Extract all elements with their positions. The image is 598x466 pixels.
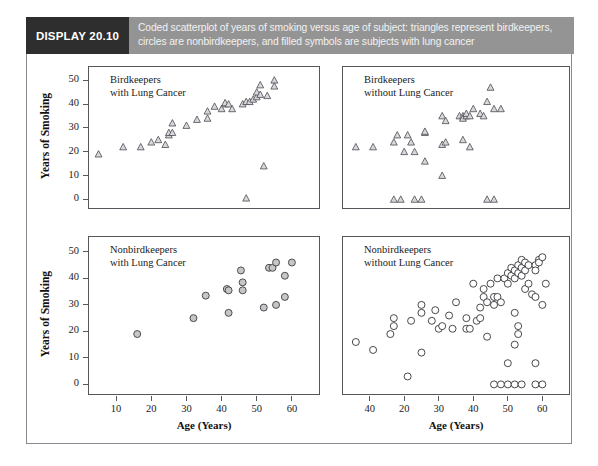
data-point	[484, 299, 491, 306]
data-point	[404, 373, 411, 380]
data-point	[239, 279, 246, 286]
y-tickmark	[83, 278, 88, 279]
data-point	[204, 115, 211, 121]
y-tick-label: 40	[54, 271, 79, 282]
data-point	[421, 128, 428, 134]
data-point	[539, 254, 546, 261]
data-point	[491, 381, 498, 388]
x-tick-label: 10	[101, 403, 131, 414]
x-tick-label: 50	[493, 403, 523, 414]
data-point	[162, 141, 169, 147]
y-tick-label: 50	[54, 245, 79, 256]
y-tick-label: 20	[54, 324, 79, 335]
data-point	[281, 272, 288, 279]
data-point	[390, 315, 397, 322]
data-point	[466, 143, 473, 149]
x-tick-label: 40	[355, 403, 385, 414]
y-axis-title: Years of Smoking	[38, 234, 50, 393]
data-point	[387, 331, 394, 338]
data-point	[390, 139, 397, 145]
data-point	[477, 315, 484, 322]
data-point	[463, 315, 470, 322]
data-point	[470, 280, 477, 287]
data-point	[484, 196, 491, 202]
y-tick-label: 30	[54, 121, 79, 132]
x-tick-label: 20	[389, 403, 419, 414]
data-point	[155, 136, 162, 142]
data-point	[95, 151, 102, 157]
x-tick-label: 30	[424, 403, 454, 414]
data-point	[183, 122, 190, 128]
data-point	[408, 139, 415, 145]
data-point	[390, 323, 397, 330]
data-point	[264, 92, 271, 98]
data-point	[432, 307, 439, 314]
data-point	[418, 309, 425, 316]
data-point	[497, 299, 504, 306]
y-tickmark	[83, 80, 88, 81]
x-tick-label: 60	[277, 403, 307, 414]
data-point	[442, 139, 449, 145]
y-tick-label: 10	[54, 169, 79, 180]
data-point	[169, 120, 176, 126]
data-point	[494, 275, 501, 282]
data-point	[418, 196, 425, 202]
data-point	[202, 292, 209, 299]
x-tick-label: 40	[207, 403, 237, 414]
data-point	[515, 323, 522, 330]
data-marker-layer-nonbirdkeepers-without-lung-cancer	[342, 236, 570, 395]
data-point	[194, 116, 201, 122]
data-point	[532, 381, 539, 388]
x-axis-title: Age (Years)	[88, 419, 320, 431]
data-point	[446, 312, 453, 319]
data-point	[532, 293, 539, 300]
data-point	[518, 381, 525, 388]
data-point	[401, 148, 408, 154]
scatter-panel-nonbirdkeepers-without-lung-cancer: Nonbirdkeepers without Lung Cancer402030…	[342, 236, 570, 395]
data-point	[352, 339, 359, 346]
data-point	[370, 143, 377, 149]
y-tickmark	[83, 151, 88, 152]
data-point	[148, 139, 155, 145]
data-point	[525, 262, 532, 269]
data-point	[225, 309, 232, 316]
data-point	[428, 317, 435, 324]
data-point	[504, 381, 511, 388]
y-tick-label: 10	[54, 351, 79, 362]
data-point	[273, 259, 280, 266]
data-point	[511, 309, 518, 316]
data-point	[411, 196, 418, 202]
y-tickmark	[83, 199, 88, 200]
data-point	[487, 280, 494, 287]
x-axis-title: Age (Years)	[342, 419, 570, 431]
y-tickmark	[83, 304, 88, 305]
display-number-tag: DISPLAY 20.10	[26, 17, 129, 54]
data-point	[273, 301, 280, 308]
data-marker-layer-nonbirdkeepers-with-lung-cancer	[88, 236, 320, 395]
data-point	[211, 103, 218, 109]
data-point	[542, 280, 549, 287]
x-tick-label: 20	[136, 403, 166, 414]
data-point	[190, 315, 197, 322]
scatter-panel-birdkeepers-without-lung-cancer: Birdkeepers without Lung Cancer	[342, 66, 570, 209]
display-caption: Coded scatterplot of years of smoking ve…	[129, 17, 574, 54]
data-point	[260, 163, 267, 169]
x-tick-label: 60	[527, 403, 557, 414]
data-marker-layer-birdkeepers-with-lung-cancer	[88, 66, 320, 209]
x-tickmark	[542, 396, 543, 401]
data-point	[271, 83, 278, 89]
data-point	[137, 143, 144, 149]
y-tickmark	[83, 127, 88, 128]
data-point	[466, 325, 473, 332]
data-point	[539, 381, 546, 388]
x-tickmark	[221, 396, 222, 401]
x-tickmark	[151, 396, 152, 401]
x-tickmark	[404, 396, 405, 401]
x-tickmark	[291, 396, 292, 401]
y-tick-label: 20	[54, 145, 79, 156]
data-point	[243, 195, 250, 201]
data-point	[439, 323, 446, 330]
data-point	[504, 360, 511, 367]
scatter-panel-birdkeepers-with-lung-cancer: Birdkeepers with Lung Cancer01020304050Y…	[88, 66, 320, 209]
x-tickmark	[256, 396, 257, 401]
